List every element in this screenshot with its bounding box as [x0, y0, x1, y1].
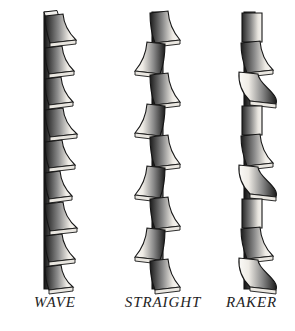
blade-label-straight: STRAIGHT: [108, 294, 218, 311]
tooth-straight-5: [150, 135, 180, 171]
blade-illustration-wave: [0, 10, 110, 295]
tooth-wave-8: [45, 234, 75, 266]
tooth-raker-1: [242, 13, 262, 42]
tooth-straight-1: [150, 11, 180, 47]
tooth-straight-7: [150, 197, 180, 233]
tooth-straight-2: [135, 42, 165, 78]
tooth-wave-1: [45, 14, 76, 47]
tooth-wave-3: [45, 77, 73, 109]
blade-column-straight: STRAIGHT: [108, 0, 218, 331]
tooth-straight-3: [150, 73, 180, 109]
tooth-straight-8: [135, 228, 165, 264]
tooth-straight-9: [150, 259, 180, 294]
tooth-wave-6: [45, 171, 72, 203]
blade-illustration-raker: [208, 10, 295, 295]
blade-column-wave: WAVE: [0, 0, 110, 331]
tooth-raker-4: [242, 106, 262, 135]
tooth-straight-4: [135, 104, 165, 140]
blade-label-raker: RAKER: [208, 294, 295, 311]
tooth-wave-5: [45, 140, 75, 172]
blade-illustration-straight: [108, 10, 218, 295]
tooth-wave-7: [45, 202, 77, 235]
tooth-straight-6: [135, 166, 165, 202]
tooth-wave-9: [45, 265, 73, 294]
saw-blade-tooth-set-figure: WAVE: [0, 0, 295, 331]
tooth-wave-4: [45, 108, 77, 141]
blade-label-wave: WAVE: [0, 294, 110, 311]
tooth-wave-2: [45, 46, 74, 78]
blade-column-raker: RAKER: [208, 0, 295, 331]
tooth-raker-7: [242, 199, 262, 228]
